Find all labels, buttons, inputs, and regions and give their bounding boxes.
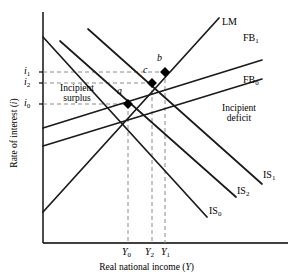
annotation-incipient-surplus: Incipient surplus	[46, 84, 108, 104]
annotation-deficit-line2: deficit	[227, 113, 251, 123]
y-axis-title-text: Rate of interest (i)	[9, 98, 19, 167]
curve-label-is2: IS2	[237, 186, 249, 197]
curve-label-fb1: FB1	[243, 33, 259, 44]
y-tick-label-i1: i1	[24, 66, 30, 77]
curve-lm	[43, 18, 219, 212]
y-tick-label-i0: i0	[24, 98, 30, 109]
curve-label-is1: IS1	[263, 170, 275, 181]
curve-is0	[43, 37, 207, 217]
x-tick-label-y0: Y0	[122, 247, 131, 258]
x-tick-label-y2: Y2	[145, 247, 154, 258]
curve-label-lm: LM	[222, 17, 237, 28]
point-label-b: b	[157, 53, 162, 64]
annotation-incipient-deficit: Incipient deficit	[208, 104, 270, 124]
point-c-marker	[147, 78, 157, 88]
x-axis-title-text: Real national income (Y)	[99, 262, 194, 272]
y-tick-label-i2: i2	[24, 77, 30, 88]
ismlm-fb-diagram: i1 i2 i0 Y0 Y2 Y1 LM FB1 FB0 IS1 IS2 IS0…	[0, 0, 293, 279]
point-label-c: c	[143, 65, 147, 76]
annotation-surplus-line2: surplus	[63, 93, 90, 103]
x-axis-title: Real national income (Y)	[0, 262, 293, 272]
annotation-surplus-line1: Incipient	[60, 83, 94, 93]
point-label-a: a	[117, 86, 122, 97]
curve-label-fb0: FB0	[243, 75, 259, 86]
annotation-deficit-line1: Incipient	[222, 103, 256, 113]
curve-label-is0: IS0	[209, 206, 221, 217]
x-tick-label-y1: Y1	[161, 247, 170, 258]
y-axis-title: Rate of interest (i)	[9, 73, 19, 193]
point-b-marker	[160, 67, 170, 77]
